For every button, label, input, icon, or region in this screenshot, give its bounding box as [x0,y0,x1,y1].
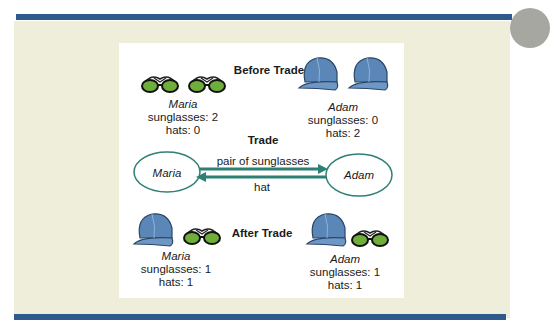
sunglasses-icon [140,72,180,94]
adam-name-after: Adam [330,252,360,266]
top-rule [16,14,512,20]
maria-name-after: Maria [162,249,191,263]
sunglasses-icon [350,226,390,248]
cap-icon [305,208,351,250]
forward-arrow-label: pair of sunglasses [217,154,310,168]
adam-sunglasses-before: sunglasses: 0 [308,113,378,127]
bottom-rule [14,314,506,320]
before-trade-title: Before Trade [234,63,304,77]
maria-sunglasses-after: sunglasses: 1 [141,262,211,276]
cap-icon [297,52,343,94]
adam-sunglasses-after: sunglasses: 1 [310,265,380,279]
cap-icon [132,208,178,250]
adam-hats-before: hats: 2 [326,126,361,140]
adam-node: Adam [344,168,374,182]
maria-node: Maria [153,166,182,180]
sunglasses-icon [187,72,227,94]
trade-title: Trade [248,133,279,147]
sunglasses-icon [182,224,222,246]
backward-arrow-label: hat [254,180,270,194]
page-tab-marker [510,8,550,48]
after-trade-title: After Trade [232,226,293,240]
maria-hats-before: hats: 0 [166,123,201,137]
adam-hats-after: hats: 1 [328,278,363,292]
maria-sunglasses-before: sunglasses: 2 [148,110,218,124]
adam-name-before: Adam [328,100,358,114]
maria-hats-after: hats: 1 [159,275,194,289]
maria-name-before: Maria [169,97,198,111]
cap-icon [347,52,393,94]
